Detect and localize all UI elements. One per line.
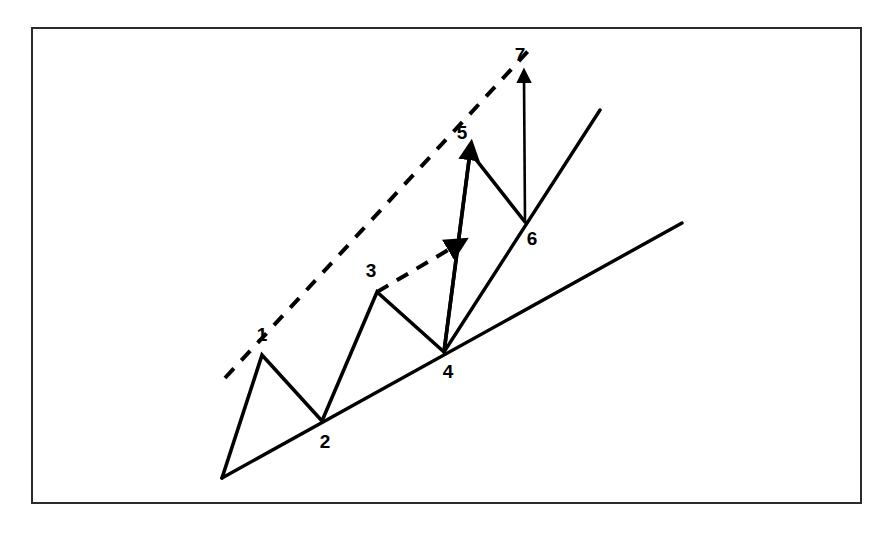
point-label-4: 4	[443, 361, 454, 382]
dashed-target-line	[377, 246, 455, 292]
figure-root: 1 2 3 4 5 6 7	[0, 0, 896, 534]
point-label-5: 5	[457, 122, 468, 143]
point-label-1: 1	[257, 324, 268, 345]
pattern-diagram: 1 2 3 4 5 6 7	[0, 0, 896, 534]
point-label-7: 7	[515, 44, 526, 65]
lower-trendline	[222, 223, 682, 478]
zigzag-wave-path	[222, 152, 525, 478]
point-label-2: 2	[320, 431, 331, 452]
dashed-resistance-line	[225, 48, 531, 378]
projection-6-to-7	[524, 78, 525, 222]
point-label-3: 3	[366, 260, 377, 281]
point-label-6: 6	[527, 228, 538, 249]
upper-trendline	[444, 110, 600, 352]
